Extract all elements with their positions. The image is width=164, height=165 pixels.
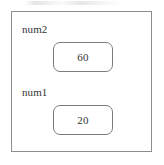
outer-frame-box: num2 60 num1 20 — [11, 11, 152, 152]
value-box-num1: 20 — [53, 105, 113, 135]
variable-label-num1: num1 — [22, 86, 47, 99]
variable-label-num2: num2 — [22, 23, 47, 36]
value-text-num2: 60 — [77, 51, 88, 64]
top-edge-artifact — [24, 1, 120, 5]
value-box-num2: 60 — [53, 42, 113, 72]
value-text-num1: 20 — [77, 114, 88, 127]
stack-frame-diagram: num2 60 num1 20 — [0, 0, 164, 165]
